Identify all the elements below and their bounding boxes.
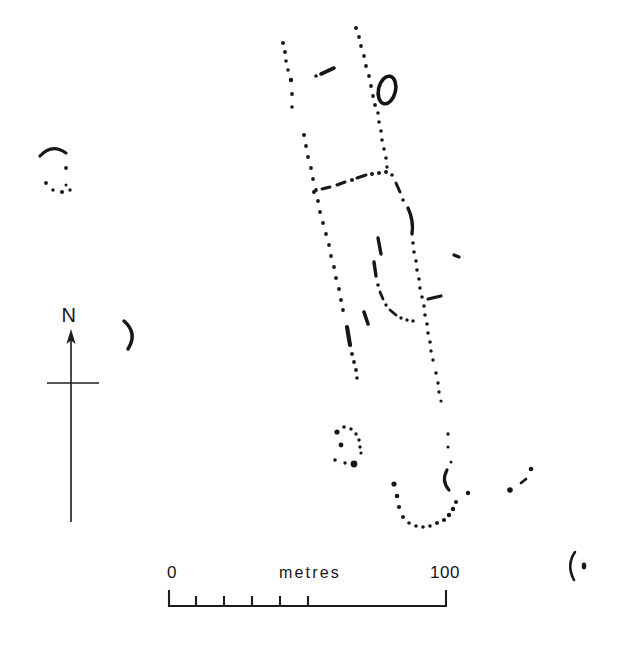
plan-background [0, 0, 620, 649]
feature-isolated-dot-east [454, 255, 459, 257]
site-plan-drawing: N 0 metres 100 [0, 0, 620, 649]
scale-bar-end-label: 100 [430, 563, 460, 582]
scale-bar-unit-label: metres [279, 564, 341, 581]
north-arrow-label: N [62, 304, 77, 326]
archaeological-site-plan: N 0 metres 100 [0, 0, 620, 649]
scale-bar-start-label: 0 [167, 563, 177, 582]
